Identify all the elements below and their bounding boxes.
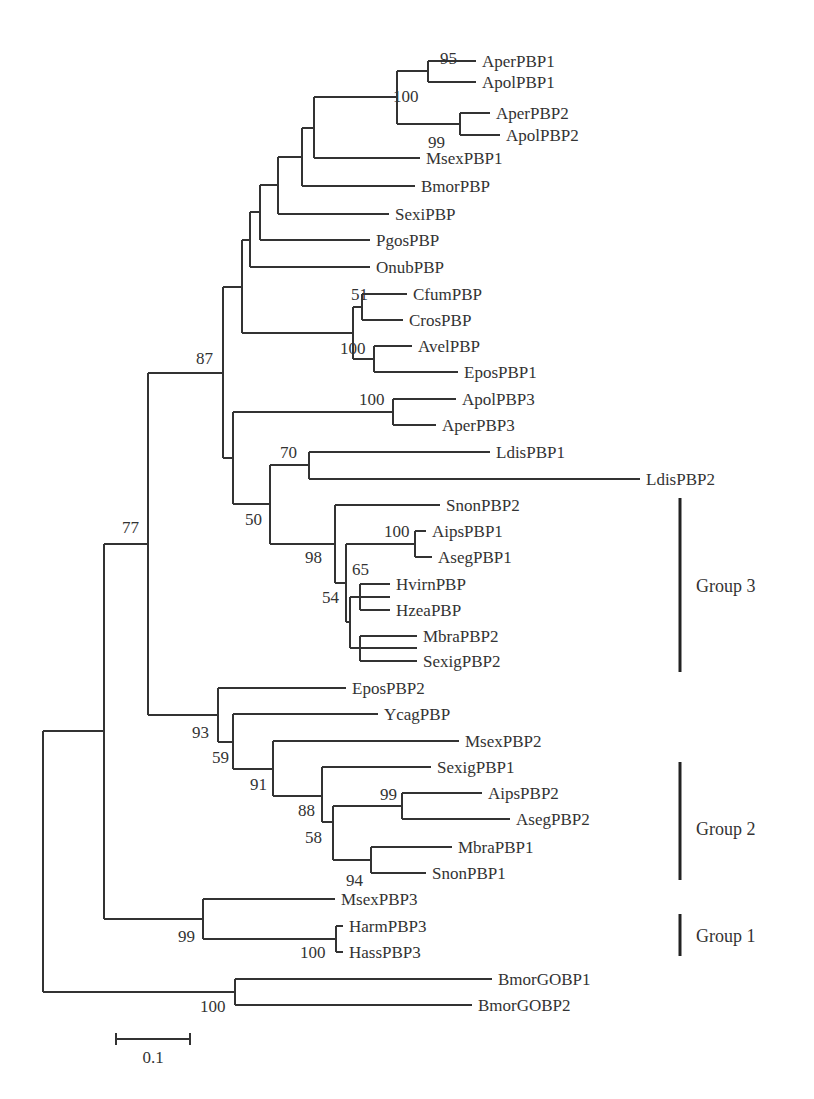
bootstrap-value: 100 — [340, 339, 366, 358]
phylogenetic-tree: AperPBP1ApolPBP1AperPBP2ApolPBP2MsexPBP1… — [0, 0, 814, 1099]
leaf-label: BmorGOBP2 — [478, 996, 571, 1015]
bootstrap-value: 51 — [351, 285, 368, 304]
leaf-label: SnonPBP2 — [446, 496, 520, 515]
group-annotations: Group 3Group 2Group 1 — [680, 498, 756, 956]
leaf-label: MsexPBP2 — [465, 732, 542, 751]
bootstrap-value: 94 — [346, 871, 364, 890]
leaf-label: AperPBP2 — [496, 104, 569, 123]
leaf-label: AperPBP3 — [442, 416, 515, 435]
bootstrap-value: 99 — [428, 133, 445, 152]
leaf-label: EposPBP2 — [352, 679, 425, 698]
bootstrap-value: 70 — [280, 443, 297, 462]
leaf-label: HassPBP3 — [349, 943, 421, 962]
leaf-label: BmorPBP — [421, 177, 490, 196]
leaf-label: SexigPBP2 — [423, 652, 500, 671]
bootstrap-value: 95 — [440, 49, 457, 68]
leaf-label: OnubPBP — [376, 258, 444, 277]
scale-bar-label: 0.1 — [142, 1048, 163, 1067]
leaf-label: AvelPBP — [418, 337, 480, 356]
leaf-label: LdisPBP2 — [646, 470, 715, 489]
bootstrap-value: 59 — [212, 748, 229, 767]
bootstrap-value: 77 — [122, 518, 140, 537]
bootstrap-value: 100 — [300, 943, 326, 962]
bootstrap-value: 58 — [305, 828, 322, 847]
leaf-label: HzeaPBP — [396, 601, 461, 620]
leaf-label: CrosPBP — [409, 311, 471, 330]
leaf-label: YcagPBP — [384, 705, 450, 724]
leaf-label: MbraPBP2 — [423, 627, 499, 646]
leaf-label: AipsPBP2 — [488, 784, 559, 803]
leaf-label: LdisPBP1 — [496, 443, 565, 462]
bootstrap-value: 50 — [245, 510, 262, 529]
bootstrap-value: 99 — [380, 785, 397, 804]
leaf-label: AsegPBP1 — [438, 548, 512, 567]
leaf-label: SexiPBP — [395, 205, 455, 224]
bootstrap-value: 93 — [192, 723, 209, 742]
bootstrap-value: 91 — [250, 775, 267, 794]
bootstrap-value: 65 — [352, 560, 369, 579]
bootstrap-value: 100 — [384, 522, 410, 541]
leaf-label: EposPBP1 — [464, 363, 537, 382]
bootstrap-values: 9510099511008710070501009865547793599188… — [122, 49, 457, 1016]
leaf-label: ApolPBP2 — [506, 126, 579, 145]
leaf-label: AperPBP1 — [482, 52, 555, 71]
leaf-label: SexigPBP1 — [437, 758, 514, 777]
bootstrap-value: 88 — [298, 801, 315, 820]
leaf-label: CfumPBP — [413, 285, 482, 304]
bootstrap-value: 100 — [359, 390, 385, 409]
bootstrap-value: 98 — [305, 548, 322, 567]
bootstrap-value: 99 — [178, 927, 195, 946]
leaf-label: ApolPBP1 — [482, 73, 555, 92]
leaf-label: BmorGOBP1 — [498, 970, 591, 989]
leaf-label: AsegPBP2 — [516, 810, 590, 829]
leaf-label: ApolPBP3 — [462, 390, 535, 409]
leaf-label: SnonPBP1 — [432, 864, 506, 883]
group-label: Group 3 — [696, 576, 756, 596]
scale-bar: 0.1 — [116, 1033, 190, 1067]
bootstrap-value: 100 — [393, 87, 419, 106]
bootstrap-value: 54 — [322, 588, 340, 607]
leaf-label: HarmPBP3 — [349, 917, 426, 936]
leaf-label: MbraPBP1 — [458, 838, 534, 857]
leaf-label: MsexPBP3 — [341, 890, 418, 909]
bootstrap-value: 87 — [196, 349, 214, 368]
group-label: Group 2 — [696, 819, 756, 839]
group-label: Group 1 — [696, 926, 756, 946]
leaf-label: PgosPBP — [376, 231, 439, 250]
leaf-label: AipsPBP1 — [432, 522, 503, 541]
bootstrap-value: 100 — [200, 997, 226, 1016]
leaf-label: HvirnPBP — [396, 575, 466, 594]
